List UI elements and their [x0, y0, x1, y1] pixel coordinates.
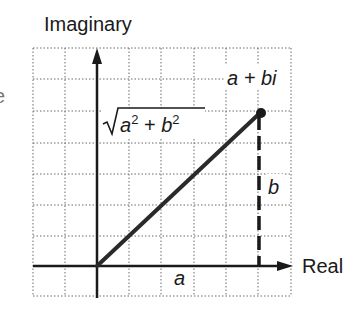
cropped-text-fragment: e: [0, 85, 5, 107]
vertical-leg-label: b: [268, 176, 279, 198]
horizontal-leg-label: a: [174, 267, 185, 289]
point-marker: [256, 108, 266, 118]
magnitude-label: a2 + b2: [120, 112, 180, 136]
imaginary-axis-arrowhead-icon: [92, 48, 102, 64]
point-label: a + bi: [227, 67, 277, 89]
imaginary-axis-label: Imaginary: [44, 13, 132, 35]
real-axis-label: Real: [302, 255, 343, 277]
complex-plane-diagram: Imaginary Real a + bi a2 + b2 b a e: [0, 0, 364, 314]
